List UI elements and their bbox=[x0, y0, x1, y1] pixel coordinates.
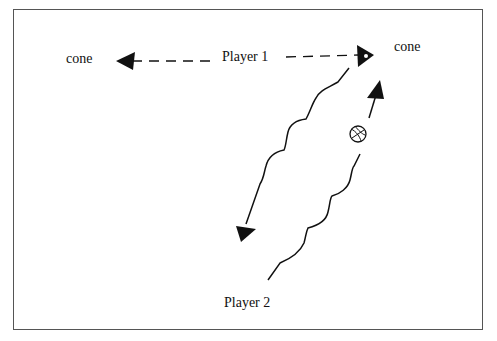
dashed-arrow-right bbox=[286, 45, 374, 67]
wavy-path-player2 bbox=[268, 80, 384, 280]
player1-label: Player 1 bbox=[222, 49, 268, 65]
dashed-arrow-left bbox=[116, 52, 210, 70]
cone-right-label: cone bbox=[394, 39, 420, 55]
cone-left-label: cone bbox=[66, 51, 92, 67]
cone-marker-icon bbox=[364, 54, 368, 58]
player2-label: Player 2 bbox=[224, 295, 270, 311]
wavy-path-player1 bbox=[236, 68, 349, 242]
basketball-icon bbox=[350, 126, 366, 142]
